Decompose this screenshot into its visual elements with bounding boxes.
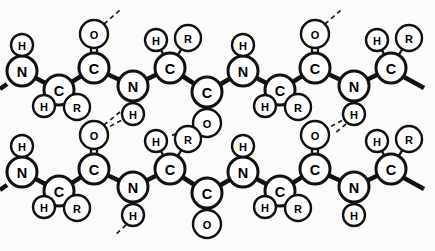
atom-h-node: H (254, 95, 276, 117)
atom-label: C (54, 83, 65, 99)
atom-label: N (238, 165, 248, 181)
atom-h-node: H (122, 204, 144, 226)
atom-n-node: N (7, 157, 37, 187)
atom-h-node: H (145, 29, 167, 51)
atom-n-node: N (228, 56, 258, 86)
atom-h-node: H (366, 29, 388, 51)
atom-n-node: N (118, 172, 148, 202)
atom-r-node: R (285, 94, 311, 120)
atom-label: C (89, 61, 100, 77)
atom-label: H (152, 35, 160, 47)
atom-label: H (261, 202, 269, 214)
atom-label: R (294, 203, 302, 215)
atom-label: C (165, 162, 176, 178)
atom-c-node: C (79, 154, 109, 184)
atom-c-node: C (155, 154, 185, 184)
atom-label: R (405, 33, 413, 45)
atom-label: H (129, 210, 137, 222)
atom-h-node: H (145, 130, 167, 152)
atom-label: C (202, 186, 213, 202)
atom-c-node: C (376, 53, 406, 83)
atom-o-node: O (193, 210, 221, 238)
atom-n-node: N (339, 172, 369, 202)
atom-label: R (73, 102, 81, 114)
atom-n-node: N (339, 71, 369, 101)
atom-r-node: R (175, 126, 201, 152)
atom-h-node: H (343, 103, 365, 125)
atom-label: O (203, 219, 212, 231)
atom-label: H (152, 136, 160, 148)
atom-h-node: H (11, 135, 33, 157)
atom-label: O (90, 29, 99, 41)
atom-r-node: R (396, 25, 422, 51)
atom-label: O (90, 130, 99, 142)
atom-c-node: C (192, 178, 222, 208)
atom-label: H (373, 35, 381, 47)
atom-o-node: O (301, 121, 329, 149)
atom-label: H (373, 136, 381, 148)
atom-r-node: R (64, 94, 90, 120)
atom-c-node: C (300, 53, 330, 83)
atom-label: H (350, 210, 358, 222)
beta-sheet-figure: NHCHRCONHCHRCONHCHRCONHCHRNHCHRCONHCHRCO… (0, 0, 435, 251)
atom-h-node: H (122, 103, 144, 125)
atom-o-node: O (301, 20, 329, 48)
atom-label: C (386, 162, 397, 178)
atom-label: C (54, 184, 65, 200)
atom-label: O (311, 29, 320, 41)
atom-n-node: N (7, 56, 37, 86)
atom-label: N (349, 79, 359, 95)
atom-label: C (310, 61, 321, 77)
atom-r-node: R (396, 126, 422, 152)
atom-label: H (18, 40, 26, 52)
atom-label: N (17, 64, 27, 80)
atom-label: R (294, 102, 302, 114)
atom-label: C (202, 85, 213, 101)
atom-c-node: C (79, 53, 109, 83)
atom-n-node: N (228, 157, 258, 187)
atom-label: R (405, 134, 413, 146)
atom-label: O (311, 130, 320, 142)
atom-label: H (129, 109, 137, 121)
atom-label: H (239, 141, 247, 153)
atom-n-node: N (118, 71, 148, 101)
atom-label: C (386, 61, 397, 77)
atom-c-node: C (192, 77, 222, 107)
atom-o-node: O (80, 20, 108, 48)
atom-o-node: O (80, 121, 108, 149)
atom-label: C (310, 162, 321, 178)
atom-label: R (184, 134, 192, 146)
atom-c-node: C (300, 154, 330, 184)
atom-label: N (128, 79, 138, 95)
atom-h-node: H (343, 204, 365, 226)
atom-r-node: R (175, 25, 201, 51)
atom-c-node: C (155, 53, 185, 83)
beta-sheet-svg-canvas: NHCHRCONHCHRCONHCHRCONHCHRNHCHRCONHCHRCO… (0, 0, 435, 251)
atom-label: H (350, 109, 358, 121)
atom-label: R (184, 33, 192, 45)
atom-h-node: H (254, 196, 276, 218)
atom-r-node: R (285, 195, 311, 221)
atom-h-node: H (11, 34, 33, 56)
atom-label: C (275, 184, 286, 200)
atom-label: N (238, 64, 248, 80)
atom-h-node: H (366, 130, 388, 152)
atom-label: O (203, 118, 212, 130)
atom-label: C (165, 61, 176, 77)
atom-label: N (17, 165, 27, 181)
atom-label: H (18, 141, 26, 153)
atom-label: C (89, 162, 100, 178)
atom-h-node: H (33, 196, 55, 218)
atom-label: R (73, 203, 81, 215)
atom-label: H (40, 101, 48, 113)
atom-c-node: C (376, 154, 406, 184)
atom-h-node: H (232, 135, 254, 157)
atom-label: N (128, 180, 138, 196)
atom-label: N (349, 180, 359, 196)
atom-label: H (40, 202, 48, 214)
atom-label: H (239, 40, 247, 52)
atom-r-node: R (64, 195, 90, 221)
atom-label: H (261, 101, 269, 113)
atom-h-node: H (33, 95, 55, 117)
atom-h-node: H (232, 34, 254, 56)
